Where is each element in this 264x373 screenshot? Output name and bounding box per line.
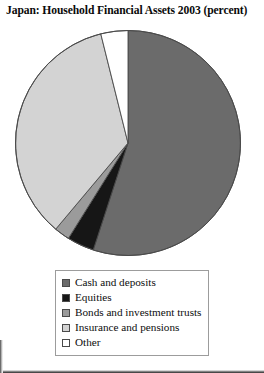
scan-page-edge-left <box>0 340 3 373</box>
legend-label-other: Other <box>75 336 100 349</box>
legend-swatch-cash-and-deposits <box>62 279 70 287</box>
pie-chart-figure: Japan: Household Financial Assets 2003 (… <box>0 0 264 373</box>
pie-chart-plot-area <box>14 29 244 259</box>
legend-item-bonds-and-investment-trusts[interactable]: Bonds and investment trusts <box>62 305 203 320</box>
page-title: Japan: Household Financial Assets 2003 (… <box>6 4 262 18</box>
legend-label-equities: Equities <box>75 291 112 304</box>
legend-item-other[interactable]: Other <box>62 335 203 350</box>
legend-label-bonds-and-investment-trusts: Bonds and investment trusts <box>75 306 201 319</box>
legend-swatch-equities <box>62 294 70 302</box>
legend-swatch-other <box>62 339 70 347</box>
legend: Cash and deposits Equities Bonds and inv… <box>55 270 209 356</box>
legend-label-insurance-and-pensions: Insurance and pensions <box>75 321 179 334</box>
legend-swatch-bonds-and-investment-trusts <box>62 309 70 317</box>
pie-chart-svg <box>14 29 244 259</box>
legend-item-cash-and-deposits[interactable]: Cash and deposits <box>62 275 203 290</box>
legend-swatch-insurance-and-pensions <box>62 324 70 332</box>
legend-item-equities[interactable]: Equities <box>62 290 203 305</box>
legend-item-insurance-and-pensions[interactable]: Insurance and pensions <box>62 320 203 335</box>
pie-slice-group <box>16 30 241 255</box>
legend-label-cash-and-deposits: Cash and deposits <box>75 276 156 289</box>
